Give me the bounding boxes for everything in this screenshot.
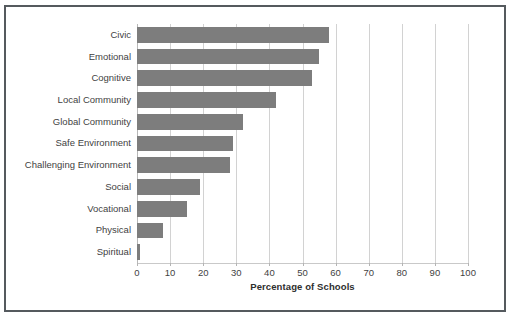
category-label: Spiritual bbox=[97, 247, 131, 257]
x-tick-mark bbox=[170, 263, 171, 266]
bar-row: Social bbox=[137, 179, 468, 195]
bar-row: Safe Environment bbox=[137, 136, 468, 152]
chart-screenshot: CivicEmotionalCognitiveLocal CommunityGl… bbox=[0, 0, 511, 317]
category-label: Social bbox=[105, 182, 131, 192]
category-label: Global Community bbox=[53, 117, 131, 127]
bar-row: Physical bbox=[137, 223, 468, 239]
x-tick-label: 70 bbox=[363, 267, 374, 278]
category-label: Cognitive bbox=[91, 73, 131, 83]
chart-frame: CivicEmotionalCognitiveLocal CommunityGl… bbox=[4, 5, 506, 312]
x-tick-mark bbox=[203, 263, 204, 266]
bar bbox=[137, 27, 329, 43]
category-label: Safe Environment bbox=[55, 138, 131, 148]
bar bbox=[137, 179, 200, 195]
x-axis-title: Percentage of Schools bbox=[137, 281, 468, 292]
gridline-100 bbox=[468, 24, 469, 263]
bar bbox=[137, 114, 243, 130]
bar bbox=[137, 136, 233, 152]
x-tick-mark bbox=[369, 263, 370, 266]
x-tick-label: 40 bbox=[264, 267, 275, 278]
x-tick-label: 100 bbox=[460, 267, 476, 278]
bar-row: Civic bbox=[137, 27, 468, 43]
category-label: Challenging Environment bbox=[25, 160, 131, 170]
x-tick-label: 60 bbox=[330, 267, 341, 278]
bar-row: Challenging Environment bbox=[137, 157, 468, 173]
category-label: Civic bbox=[110, 30, 131, 40]
x-tick-label: 10 bbox=[165, 267, 176, 278]
category-label: Physical bbox=[96, 225, 131, 235]
x-tick-label: 90 bbox=[430, 267, 441, 278]
bar bbox=[137, 49, 319, 65]
x-tick-mark bbox=[336, 263, 337, 266]
x-tick-mark bbox=[435, 263, 436, 266]
bar-row: Local Community bbox=[137, 92, 468, 108]
bar-row: Vocational bbox=[137, 201, 468, 217]
bar bbox=[137, 244, 140, 260]
x-tick-mark bbox=[137, 263, 138, 266]
bar bbox=[137, 223, 163, 239]
x-axis-ticks: 0102030405060708090100 bbox=[137, 263, 468, 279]
x-tick-mark bbox=[468, 263, 469, 266]
plot-area: CivicEmotionalCognitiveLocal CommunityGl… bbox=[137, 24, 468, 263]
x-tick-mark bbox=[269, 263, 270, 266]
bar-row: Spiritual bbox=[137, 244, 468, 260]
bar bbox=[137, 157, 230, 173]
bar-series: CivicEmotionalCognitiveLocal CommunityGl… bbox=[137, 24, 468, 263]
x-tick-label: 50 bbox=[297, 267, 308, 278]
category-label: Emotional bbox=[89, 52, 131, 62]
x-tick-mark bbox=[402, 263, 403, 266]
bar bbox=[137, 92, 276, 108]
category-label: Local Community bbox=[58, 95, 131, 105]
x-tick-label: 20 bbox=[198, 267, 209, 278]
bar-row: Global Community bbox=[137, 114, 468, 130]
category-label: Vocational bbox=[87, 204, 131, 214]
bar-row: Emotional bbox=[137, 49, 468, 65]
x-tick-label: 80 bbox=[397, 267, 408, 278]
bar bbox=[137, 70, 312, 86]
x-tick-mark bbox=[236, 263, 237, 266]
bar-row: Cognitive bbox=[137, 70, 468, 86]
x-tick-label: 30 bbox=[231, 267, 242, 278]
x-tick-label: 0 bbox=[134, 267, 139, 278]
x-tick-mark bbox=[303, 263, 304, 266]
bar bbox=[137, 201, 187, 217]
